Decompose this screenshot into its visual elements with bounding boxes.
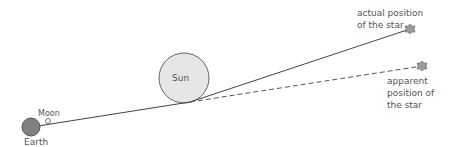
actual-label-line1: actual position <box>357 7 423 19</box>
apparent-label-line1: apparent <box>387 75 434 87</box>
apparent-star-icon <box>417 61 427 71</box>
moon-label: Moon <box>38 108 60 120</box>
apparent-label-line3: the star <box>387 99 434 111</box>
apparent-position-label: apparent position of the star <box>387 75 434 111</box>
earth-circle <box>22 118 40 136</box>
sun-label: Sun <box>172 72 189 84</box>
actual-position-label: actual position of the star <box>357 7 423 31</box>
actual-light-path <box>38 29 410 126</box>
actual-label-line2: of the star <box>357 19 423 31</box>
earth-label: Earth <box>24 136 48 147</box>
apparent-label-line2: position of <box>387 87 434 99</box>
